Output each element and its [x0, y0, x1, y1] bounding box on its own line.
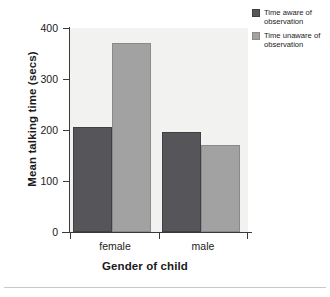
x-axis-line [62, 232, 252, 233]
x-axis-title: Gender of child [40, 260, 250, 272]
bar-chart-figure: Mean talking time (secs) 400 300 200 100… [0, 0, 330, 297]
legend-entry-time-unaware: Time unaware of observation [252, 31, 330, 50]
bar-male-time-unaware [201, 145, 240, 232]
x-tick-mark-right [247, 232, 248, 239]
legend-entry-time-aware: Time aware of observation [252, 8, 330, 27]
y-tick-mark-300 [63, 79, 70, 80]
bar-female-time-aware [73, 127, 112, 232]
y-tick-mark-0 [63, 232, 70, 233]
x-tick-mark-mid [159, 232, 160, 239]
y-tick-label-400: 400 [18, 22, 58, 34]
y-tick-mark-100 [63, 181, 70, 182]
y-tick-mark-200 [63, 130, 70, 131]
bar-male-time-aware [162, 132, 201, 232]
legend-label-time-unaware: Time unaware of observation [264, 31, 330, 50]
legend-swatch-icon-time-aware [252, 9, 260, 17]
x-tick-label-male: male [163, 240, 243, 252]
legend-label-time-aware: Time aware of observation [264, 8, 330, 27]
y-tick-label-100: 100 [18, 175, 58, 187]
y-tick-mark-400 [63, 28, 70, 29]
chart-legend: Time aware of observation Time unaware o… [252, 8, 330, 54]
y-tick-label-0: 0 [18, 226, 58, 238]
legend-swatch-icon-time-unaware [252, 32, 260, 40]
bottom-divider [4, 287, 326, 288]
bar-female-time-unaware [112, 43, 151, 232]
x-tick-label-female: female [75, 240, 155, 252]
x-tick-mark-left [70, 232, 71, 239]
y-tick-label-200: 200 [18, 124, 58, 136]
y-tick-label-300: 300 [18, 73, 58, 85]
